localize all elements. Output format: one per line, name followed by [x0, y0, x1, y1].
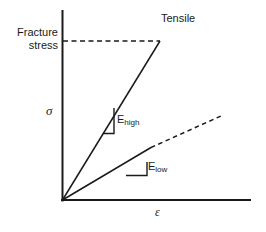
e-high-subscript: high [124, 118, 139, 127]
y-axis-label: σ [46, 105, 52, 118]
e-high-modulus-label: Ehigh [117, 113, 139, 128]
e-low-subscript: low [155, 165, 167, 174]
chart-title: Tensile [161, 12, 195, 25]
fracture-stress-label: Fracturestress [2, 26, 58, 51]
low-modulus-curve-dashed [151, 116, 222, 148]
tensile-stress-strain-diagram: Fracturestress Tensile σ ε Ehigh Elow [0, 0, 266, 232]
low-modulus-curve-solid [63, 148, 152, 201]
fracture-stress-label-line1: Fracture [17, 26, 58, 38]
e-low-slope-triangle [126, 162, 147, 176]
e-low-modulus-label: Elow [148, 160, 167, 175]
x-axis-label: ε [155, 206, 160, 219]
fracture-stress-label-line2: stress [29, 39, 58, 51]
